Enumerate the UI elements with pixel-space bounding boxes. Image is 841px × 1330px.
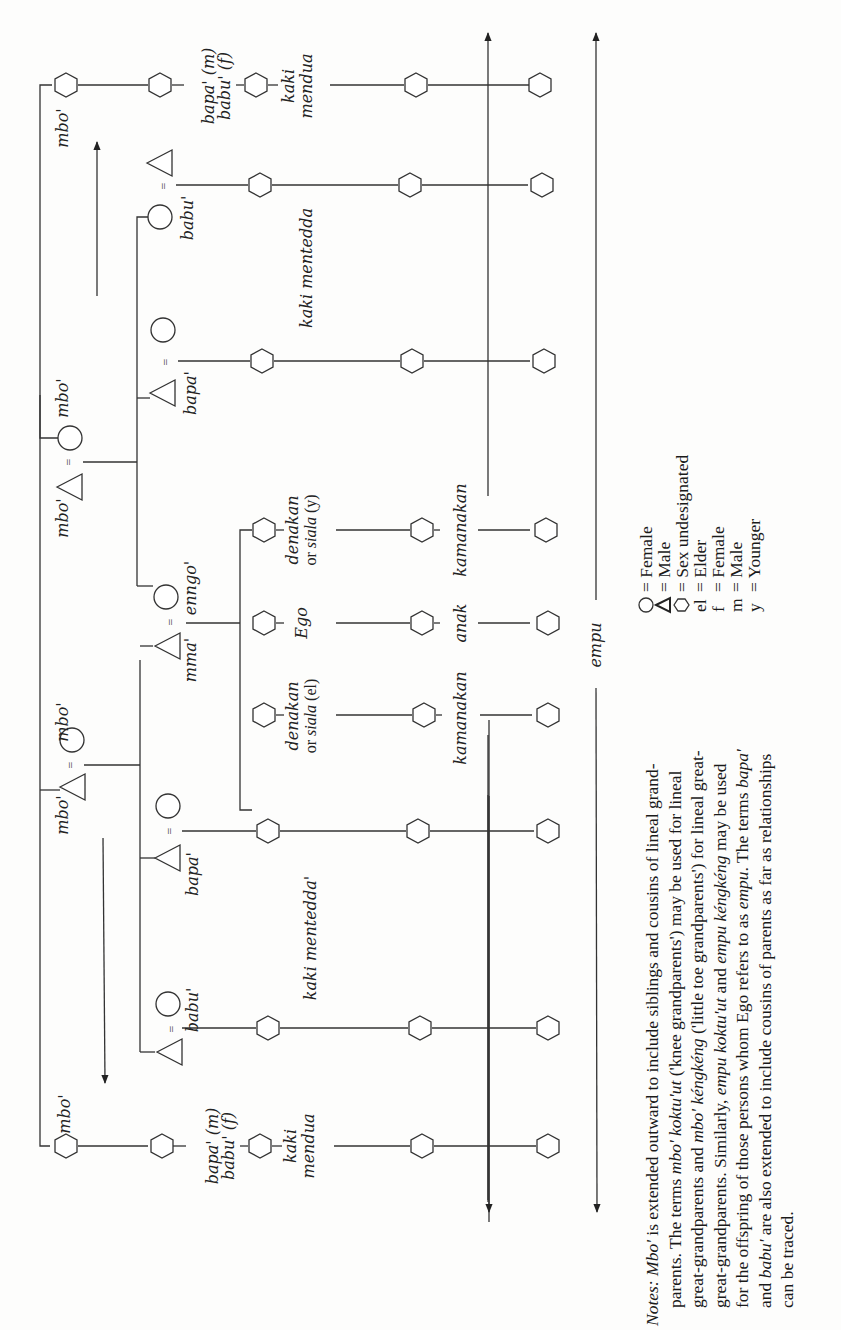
legend: = Female = Male = Sex undesignated el = … (636, 455, 764, 612)
hexagon-icon (537, 703, 559, 727)
legend-key: el (690, 599, 710, 612)
male-triangle-icon (656, 598, 670, 612)
term-aunt-left: babu' (183, 988, 202, 1033)
legend-label: = Female (708, 526, 728, 592)
hexagon-icon (245, 73, 267, 97)
legend-label: = Younger (744, 519, 764, 592)
male-triangle-icon (57, 474, 82, 500)
hexagon-icon (249, 1134, 271, 1158)
term-children-ego: anak (451, 603, 470, 642)
svg-text:=: = (64, 761, 78, 768)
hexagon-icon (55, 1134, 77, 1158)
term-elder-sibling-1: denakan (283, 681, 302, 750)
legend-key: y (744, 603, 764, 612)
hexagon-icon (249, 173, 271, 197)
notes-line: great-grandparents and mbo' kéngkéng ('l… (687, 750, 707, 1308)
hexagon-icon (411, 611, 433, 635)
connector-lines (40, 33, 597, 1230)
hexagon-icon (151, 1134, 173, 1158)
hexagon-icon (537, 611, 559, 635)
male-triangle-icon (157, 1039, 182, 1065)
hexagon-icon (531, 173, 553, 197)
male-triangle-icon (155, 845, 180, 871)
female-circle-icon (148, 205, 172, 229)
female-circle-icon (151, 318, 175, 342)
term-mbo-right-arrow: mbo' (53, 108, 72, 147)
hexagon-icon (257, 1016, 279, 1040)
term-children-right: kamanakan (451, 483, 470, 576)
term-second-cousin-left-1: kaki (281, 1129, 300, 1163)
male-triangle-icon (150, 380, 175, 406)
legend-key: m (726, 598, 746, 612)
term-aunt-right: babu' (178, 196, 197, 241)
hexagon-icon (537, 819, 559, 843)
notes-line: great-grandparents. Similarly, empu kokt… (710, 763, 730, 1308)
hexagon-icon (407, 819, 429, 843)
hexagon-icon (537, 1134, 559, 1158)
female-circle-icon (156, 794, 180, 818)
term-cousins-right: kaki mentedda (297, 208, 316, 328)
term-second-cousin-left-2: mendua (299, 1113, 318, 1178)
hexagon-icon (251, 349, 273, 373)
hexagon-icon (674, 599, 689, 611)
book-page: = = = = = = = mbo' mbo' mbo' mbo' mbo' m… (0, 0, 841, 1330)
term-father: mma' (181, 638, 200, 682)
female-circle-icon (58, 426, 82, 450)
svg-text:=: = (163, 827, 177, 834)
hexagon-icon (257, 819, 279, 843)
term-parent-cousin-left-f: babu' (f) (219, 1112, 238, 1180)
term-grandmother-left: mbo' (53, 702, 72, 741)
notes-line: for the offspring of those persons whom … (732, 749, 752, 1308)
hexagon-icon (55, 73, 77, 97)
term-mbo-left-arrow: mbo' (55, 1094, 74, 1133)
hexagon-icon (409, 1016, 431, 1040)
term-children-left: kamanakan (451, 671, 470, 764)
legend-label: = Male (654, 542, 674, 592)
svg-text:=: = (159, 358, 173, 365)
legend-label: = Female (636, 526, 656, 592)
kinship-diagram: = = = = = = = mbo' mbo' mbo' mbo' mbo' m… (0, 0, 841, 1330)
term-grandmother-right: mbo' (53, 378, 72, 417)
term-grandfather-left: mbo' (53, 795, 72, 834)
hexagon-icon (253, 518, 275, 542)
term-uncle-left: bapa' (183, 852, 202, 896)
hexagon-icon (529, 73, 551, 97)
term-uncle-right: bapa' (181, 371, 200, 415)
svg-text:=: = (165, 1025, 179, 1032)
female-circle-icon (154, 585, 178, 609)
female-circle-icon (639, 598, 653, 612)
term-grandchildren: empu (586, 622, 605, 667)
svg-text:=: = (62, 458, 76, 465)
male-triangle-icon (147, 150, 172, 176)
notes-line: parents. The terms mbo' koktu'ut ('knee … (665, 771, 685, 1308)
hexagon-icon (411, 1134, 433, 1158)
kin-terms: mbo' mbo' mbo' mbo' mbo' mbo' babu' bapa… (53, 48, 605, 1185)
hexagon-icon (405, 73, 427, 97)
term-ego: Ego (292, 607, 311, 640)
legend-key: f (708, 606, 728, 612)
hexagon-icon (413, 703, 435, 727)
term-cousins-left: kaki mentedda' (301, 876, 320, 1000)
notes-line: Notes: Mbo' is extended outward to inclu… (642, 763, 662, 1327)
hexagon-icon (399, 173, 421, 197)
hexagon-icon (401, 349, 423, 373)
female-circle-icon (156, 992, 180, 1016)
hexagon-icon (533, 349, 555, 373)
term-elder-sibling-2: or siala (el) (302, 679, 320, 754)
term-second-cousin-right-2: mendua (297, 53, 316, 118)
hexagon-icon (537, 1016, 559, 1040)
term-grandfather-right: mbo' (53, 498, 72, 537)
term-parent-cousin-right-f: babu' (f) (215, 52, 234, 120)
term-younger-sibling-1: denakan (283, 495, 302, 564)
svg-text:=: = (157, 182, 171, 189)
svg-text:=: = (164, 618, 178, 625)
hexagon-icon (535, 518, 557, 542)
term-younger-sibling-2: or siala (y) (302, 494, 320, 565)
notes-line: can be traced. (777, 1211, 797, 1308)
term-mother: enngo' (181, 561, 200, 615)
male-triangle-icon (155, 633, 180, 659)
hexagon-icon (253, 703, 275, 727)
notes-paragraph: Notes: Mbo' is extended outward to inclu… (642, 749, 797, 1327)
legend-label: = Male (726, 542, 746, 592)
hexagon-icon (253, 611, 275, 635)
